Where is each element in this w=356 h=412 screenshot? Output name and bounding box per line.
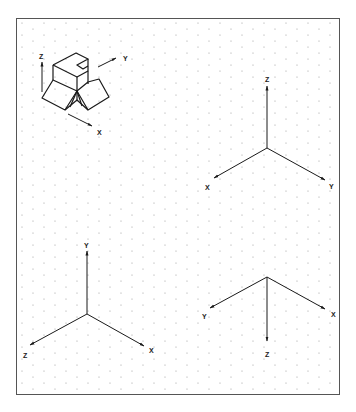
x-axis-label: X xyxy=(331,311,336,318)
x-axis-label: X xyxy=(149,347,154,354)
z-axis-label: Z xyxy=(39,53,44,60)
isometric-dot-grid xyxy=(21,22,330,389)
y-axis-arrow xyxy=(98,58,116,67)
z-axis-label: Z xyxy=(23,352,28,359)
block-left-wing xyxy=(42,80,77,110)
y-axis-label: Y xyxy=(84,242,89,249)
y-axis-label: Y xyxy=(202,313,207,320)
y-axis-label: Y xyxy=(329,183,334,190)
x-axis-label: X xyxy=(205,184,210,191)
axes-bottom-left xyxy=(30,251,144,346)
isometric-axes-diagram: Z Y X Z X Y Y Z X Y X Z xyxy=(0,0,356,412)
x-axis-arrow xyxy=(68,114,92,126)
z-axis-label: Z xyxy=(265,76,270,83)
block-top-face xyxy=(53,53,88,69)
y-axis-label: Y xyxy=(123,55,128,62)
axes-top-right xyxy=(214,86,325,180)
z-axis-label: Z xyxy=(265,351,270,358)
x-axis-label: X xyxy=(97,129,102,136)
drawing-frame xyxy=(17,19,340,395)
